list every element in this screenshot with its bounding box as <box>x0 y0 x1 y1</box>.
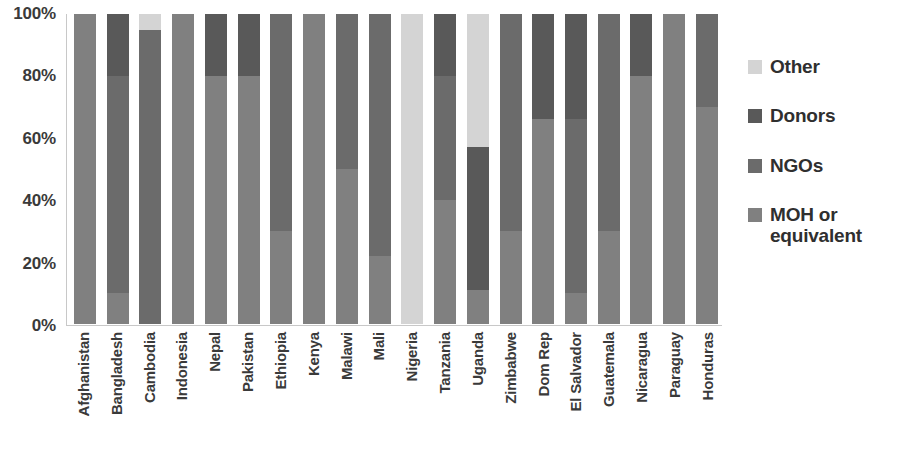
legend-label: Donors <box>770 105 835 126</box>
x-axis-label: Ethiopia <box>271 332 288 390</box>
y-axis-tick: 20% <box>23 254 56 274</box>
x-axis-label-cell: Cambodia <box>138 328 160 454</box>
bar-segment[interactable] <box>500 14 522 231</box>
x-axis-label-cell: Pakistan <box>236 328 258 454</box>
bar-segment[interactable] <box>500 231 522 324</box>
bar-column[interactable] <box>74 14 96 324</box>
x-axis-label-cell: Nicaragua <box>630 328 652 454</box>
legend-swatch-icon <box>748 109 762 123</box>
bar-column[interactable] <box>565 14 587 324</box>
x-axis-label: Nepal <box>206 332 223 372</box>
bar-segment[interactable] <box>139 30 161 325</box>
stacked-bar-chart: 100%80%60%40%20%0% AfghanistanBangladesh… <box>0 0 902 456</box>
legend-item[interactable]: Other <box>748 56 898 77</box>
bar-segment[interactable] <box>696 14 718 107</box>
bar-column[interactable] <box>532 14 554 324</box>
bar-column[interactable] <box>401 14 423 324</box>
bar-segment[interactable] <box>238 76 260 324</box>
x-axis-label: Nigeria <box>403 332 420 381</box>
bar-segment[interactable] <box>565 293 587 324</box>
bar-segment[interactable] <box>598 14 620 231</box>
bar-column[interactable] <box>172 14 194 324</box>
bar-segment[interactable] <box>434 14 456 76</box>
plot-area <box>66 14 722 326</box>
bar-column[interactable] <box>139 14 161 324</box>
x-axis-label-cell: Mali <box>367 328 389 454</box>
bar-segment[interactable] <box>598 231 620 324</box>
bar-segment[interactable] <box>369 14 391 256</box>
bar-column[interactable] <box>663 14 685 324</box>
legend-label: MOH or equivalent <box>770 204 898 247</box>
bar-segment[interactable] <box>434 200 456 324</box>
x-axis-label: Guatemala <box>600 332 617 407</box>
x-axis-label-cell: Malawi <box>335 328 357 454</box>
x-axis-labels: AfghanistanBangladeshCambodiaIndonesiaNe… <box>66 328 722 454</box>
bar-series-container <box>68 14 722 324</box>
bar-segment[interactable] <box>270 14 292 231</box>
y-axis-tick: 100% <box>13 4 56 24</box>
bar-segment[interactable] <box>107 14 129 76</box>
x-axis-label-cell: Afghanistan <box>72 328 94 454</box>
bar-segment[interactable] <box>434 76 456 200</box>
bar-segment[interactable] <box>369 256 391 324</box>
bar-segment[interactable] <box>565 14 587 119</box>
x-axis-label: El Salvador <box>567 332 584 412</box>
bar-column[interactable] <box>107 14 129 324</box>
bar-segment[interactable] <box>107 293 129 324</box>
bar-segment[interactable] <box>139 14 161 30</box>
x-axis-label-cell: Indonesia <box>170 328 192 454</box>
bar-segment[interactable] <box>532 14 554 119</box>
y-axis-tick: 60% <box>23 129 56 149</box>
x-axis-label-cell: Bangladesh <box>105 328 127 454</box>
bar-column[interactable] <box>598 14 620 324</box>
bar-segment[interactable] <box>467 290 489 324</box>
bar-segment[interactable] <box>107 76 129 293</box>
bar-segment[interactable] <box>336 169 358 324</box>
x-axis-label-cell: Uganda <box>466 328 488 454</box>
bar-column[interactable] <box>303 14 325 324</box>
x-axis-label-cell: Zimbabwe <box>499 328 521 454</box>
legend-item[interactable]: Donors <box>748 105 898 126</box>
x-axis-label: Kenya <box>304 332 321 376</box>
bar-column[interactable] <box>270 14 292 324</box>
bar-segment[interactable] <box>74 14 96 324</box>
bar-column[interactable] <box>238 14 260 324</box>
legend-item[interactable]: NGOs <box>748 155 898 176</box>
bar-segment[interactable] <box>205 76 227 324</box>
bar-segment[interactable] <box>401 14 423 324</box>
bar-column[interactable] <box>500 14 522 324</box>
legend-label: NGOs <box>770 155 823 176</box>
bar-column[interactable] <box>630 14 652 324</box>
x-axis-label-cell: Nigeria <box>400 328 422 454</box>
bar-column[interactable] <box>467 14 489 324</box>
bar-segment[interactable] <box>565 119 587 293</box>
bar-segment[interactable] <box>205 14 227 76</box>
bar-segment[interactable] <box>630 14 652 76</box>
x-axis-label-cell: Tanzania <box>433 328 455 454</box>
bar-column[interactable] <box>336 14 358 324</box>
x-axis-label: Zimbabwe <box>501 332 518 404</box>
y-axis: 100%80%60%40%20%0% <box>0 14 62 326</box>
x-axis-label: Nicaragua <box>633 332 650 403</box>
bar-segment[interactable] <box>630 76 652 324</box>
bar-segment[interactable] <box>532 119 554 324</box>
bar-segment[interactable] <box>303 14 325 324</box>
bar-segment[interactable] <box>696 107 718 324</box>
bar-segment[interactable] <box>467 14 489 147</box>
bar-segment[interactable] <box>270 231 292 324</box>
x-axis-label: Pakistan <box>239 332 256 392</box>
bar-column[interactable] <box>434 14 456 324</box>
bar-segment[interactable] <box>663 14 685 324</box>
x-axis-label: Indonesia <box>173 332 190 400</box>
x-axis-label: Afghanistan <box>75 332 92 416</box>
bar-segment[interactable] <box>336 14 358 169</box>
bar-segment[interactable] <box>467 147 489 290</box>
x-axis-label: Paraguay <box>665 332 682 398</box>
x-axis-label: Uganda <box>468 332 485 386</box>
legend-item[interactable]: MOH or equivalent <box>748 204 898 247</box>
bar-column[interactable] <box>205 14 227 324</box>
bar-segment[interactable] <box>238 14 260 76</box>
bar-segment[interactable] <box>172 14 194 324</box>
bar-column[interactable] <box>696 14 718 324</box>
bar-column[interactable] <box>369 14 391 324</box>
